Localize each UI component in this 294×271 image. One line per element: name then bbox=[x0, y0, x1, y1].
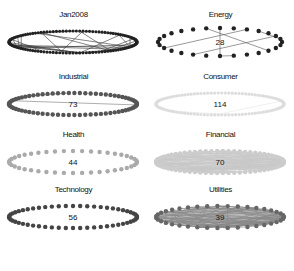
node bbox=[178, 151, 182, 155]
node bbox=[44, 170, 48, 174]
node bbox=[253, 112, 256, 115]
node bbox=[85, 204, 89, 208]
node bbox=[226, 171, 230, 175]
node bbox=[170, 153, 174, 157]
node bbox=[253, 169, 257, 173]
node bbox=[256, 51, 260, 55]
node bbox=[78, 51, 81, 54]
node bbox=[80, 149, 84, 153]
node bbox=[217, 113, 220, 116]
node-count-label: 44 bbox=[69, 158, 78, 167]
node bbox=[94, 30, 97, 33]
node bbox=[78, 91, 82, 95]
node bbox=[262, 152, 266, 156]
node bbox=[195, 225, 199, 229]
node bbox=[231, 92, 234, 95]
node bbox=[164, 209, 168, 213]
node bbox=[178, 168, 182, 172]
node bbox=[238, 170, 242, 174]
node bbox=[186, 224, 190, 228]
node bbox=[178, 94, 181, 97]
node bbox=[45, 50, 48, 53]
node bbox=[88, 91, 92, 95]
node bbox=[99, 92, 103, 96]
node bbox=[209, 171, 213, 175]
node bbox=[215, 204, 219, 208]
panel-consumer: Consumer 114 bbox=[147, 72, 294, 130]
node bbox=[17, 166, 21, 170]
node bbox=[81, 51, 84, 54]
node bbox=[266, 167, 270, 171]
node bbox=[187, 169, 191, 173]
panel-title: Energy bbox=[147, 10, 294, 19]
node bbox=[183, 112, 186, 115]
node bbox=[129, 164, 133, 168]
node bbox=[116, 223, 120, 227]
node bbox=[206, 113, 209, 116]
node bbox=[37, 31, 40, 34]
node bbox=[62, 149, 66, 153]
node bbox=[221, 149, 225, 153]
node bbox=[31, 110, 35, 114]
node bbox=[75, 51, 78, 54]
node bbox=[221, 171, 225, 175]
node bbox=[204, 149, 208, 153]
node bbox=[258, 151, 262, 155]
node bbox=[89, 149, 93, 153]
node bbox=[258, 168, 262, 172]
node bbox=[241, 113, 244, 116]
node bbox=[224, 113, 227, 116]
node bbox=[104, 111, 108, 115]
node bbox=[232, 171, 236, 175]
node bbox=[198, 170, 202, 174]
node bbox=[91, 51, 94, 54]
panel-title: Technology bbox=[0, 185, 147, 194]
node bbox=[116, 207, 120, 211]
node bbox=[94, 112, 98, 116]
node bbox=[83, 113, 87, 117]
node bbox=[213, 91, 216, 94]
node bbox=[274, 210, 278, 214]
node bbox=[26, 207, 30, 211]
node bbox=[256, 94, 259, 97]
node bbox=[205, 204, 209, 208]
node bbox=[99, 205, 103, 209]
node bbox=[205, 226, 209, 230]
node bbox=[243, 170, 247, 174]
node bbox=[244, 92, 247, 95]
node bbox=[67, 91, 71, 95]
node bbox=[50, 204, 54, 208]
node-count-label: 70 bbox=[216, 158, 225, 167]
node bbox=[34, 32, 37, 35]
node bbox=[65, 51, 68, 54]
node bbox=[215, 149, 219, 153]
node bbox=[68, 51, 71, 54]
node bbox=[220, 113, 223, 116]
node bbox=[105, 169, 109, 173]
node bbox=[238, 149, 242, 153]
node bbox=[43, 205, 47, 209]
network-graph: 44 bbox=[0, 140, 147, 188]
node bbox=[52, 51, 55, 54]
node bbox=[247, 93, 250, 96]
node bbox=[226, 226, 230, 230]
node bbox=[218, 26, 222, 30]
node bbox=[31, 206, 35, 210]
node bbox=[103, 50, 106, 53]
node bbox=[164, 221, 168, 225]
node bbox=[125, 154, 129, 158]
node bbox=[226, 149, 230, 153]
node bbox=[94, 51, 97, 54]
node bbox=[186, 112, 189, 115]
node bbox=[169, 31, 173, 35]
node bbox=[61, 113, 65, 117]
node bbox=[256, 111, 259, 114]
node bbox=[231, 113, 234, 116]
node bbox=[111, 223, 115, 227]
node bbox=[278, 43, 282, 47]
node bbox=[254, 206, 258, 210]
node bbox=[256, 29, 260, 33]
node bbox=[179, 51, 183, 55]
node bbox=[226, 204, 230, 208]
node bbox=[238, 92, 241, 95]
